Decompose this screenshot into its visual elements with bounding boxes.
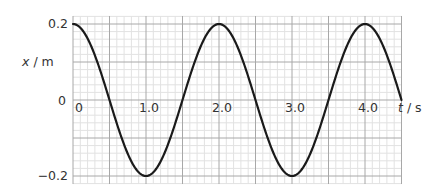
y-tick-0.2: 0.2 — [48, 16, 68, 31]
svg-text:t / s: t / s — [398, 100, 422, 115]
y-tick-neg-0.2: −0.2 — [38, 168, 68, 183]
x-tick-4.0: 4.0 — [358, 100, 378, 115]
y-axis-unit: m — [42, 54, 54, 69]
y-tick-labels: 0.2 0 −0.2 — [38, 16, 68, 183]
x-tick-1.0: 1.0 — [139, 100, 159, 115]
x-axis-title: t / s — [398, 100, 422, 115]
x-tick-0: 0 — [75, 100, 83, 115]
y-tick-0: 0 — [58, 93, 66, 108]
x-tick-3.0: 3.0 — [285, 100, 305, 115]
x-tick-2.0: 2.0 — [212, 100, 232, 115]
svg-text:x / m: x / m — [21, 54, 54, 69]
major-grid — [73, 16, 402, 184]
displacement-time-chart: x / m t / s 0.2 0 −0.2 0 1.0 2.0 3.0 4.0 — [0, 0, 438, 193]
y-axis-slash: / — [29, 54, 41, 69]
x-axis-slash: / — [403, 100, 415, 115]
x-axis-unit: s — [415, 100, 422, 115]
y-axis-title: x / m — [21, 54, 54, 69]
